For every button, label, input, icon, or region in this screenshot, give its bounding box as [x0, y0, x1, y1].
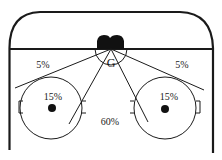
- left-faceoff-circle: [19, 77, 86, 139]
- zone-label-left-faceoff: 15%: [44, 91, 62, 102]
- right-faceoff-dot: [161, 105, 169, 113]
- rink-diagram: G 5% 5% 15% 15% 60%: [0, 0, 222, 160]
- goalie-label: G: [107, 56, 116, 70]
- zone-label-right-faceoff: 15%: [160, 91, 178, 102]
- left-faceoff-dot: [48, 104, 56, 112]
- zone-label-slot: 60%: [101, 116, 119, 127]
- zone-label-left-corner: 5%: [36, 59, 49, 70]
- zone-label-right-corner: 5%: [175, 59, 188, 70]
- goal-net: [97, 35, 124, 49]
